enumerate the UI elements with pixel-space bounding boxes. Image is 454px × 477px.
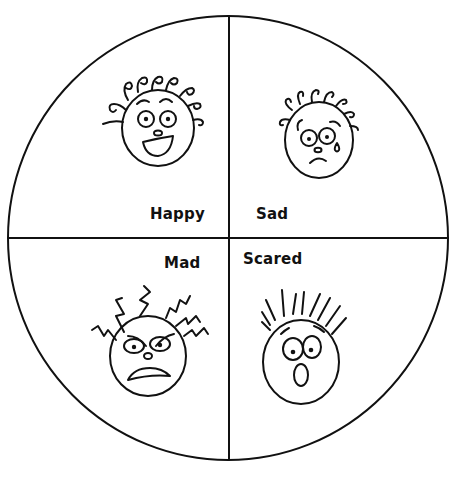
mad-face-icon xyxy=(92,286,208,396)
label-scared: Scared xyxy=(243,252,302,267)
happy-face-icon xyxy=(103,77,203,166)
label-mad: Mad xyxy=(164,256,200,271)
label-happy: Happy xyxy=(150,207,205,222)
label-sad: Sad xyxy=(256,207,288,222)
sad-face-icon xyxy=(280,90,358,178)
feelings-wheel xyxy=(0,0,454,477)
scared-face-icon xyxy=(262,290,346,404)
